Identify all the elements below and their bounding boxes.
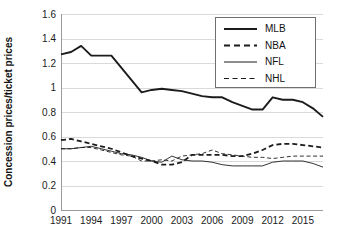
y-axis-ticks: 00.20.40.60.811.21.41.6 — [42, 9, 56, 216]
y-tick-label: 0.6 — [42, 131, 56, 142]
legend-label-nba: NBA — [265, 40, 286, 51]
y-tick-label: 1 — [50, 82, 56, 93]
x-tick-label: 2000 — [141, 215, 164, 226]
y-tick-label: 1.6 — [42, 9, 56, 20]
chart-container: 00.20.40.60.811.21.41.6 1991199419972000… — [0, 0, 339, 243]
y-tick-label: 0 — [50, 205, 56, 216]
x-tick-label: 1997 — [110, 215, 133, 226]
legend-label-mlb: MLB — [265, 23, 286, 34]
x-tick-label: 2006 — [201, 215, 224, 226]
x-axis-ticks: 199119941997200020032006200920122015 — [50, 215, 315, 226]
legend-label-nfl: NFL — [265, 56, 284, 67]
series-line-nfl — [61, 146, 323, 167]
x-tick-label: 2003 — [171, 215, 194, 226]
y-tick-label: 1.4 — [42, 33, 56, 44]
x-tick-label: 1994 — [80, 215, 103, 226]
x-tick-label: 2009 — [231, 215, 254, 226]
y-tick-label: 0.2 — [42, 180, 56, 191]
x-tick-label: 2012 — [261, 215, 284, 226]
legend-label-nhl: NHL — [265, 73, 285, 84]
chart-legend: MLBNBANFLNHL — [216, 18, 316, 88]
line-chart: 00.20.40.60.811.21.41.6 1991199419972000… — [0, 0, 339, 243]
y-axis-title: Concession prices/ticket prices — [3, 37, 14, 188]
x-tick-label: 2015 — [292, 215, 315, 226]
y-tick-label: 0.8 — [42, 107, 56, 118]
x-tick-label: 1991 — [50, 215, 73, 226]
y-tick-label: 0.4 — [42, 156, 56, 167]
y-tick-label: 1.2 — [42, 58, 56, 69]
